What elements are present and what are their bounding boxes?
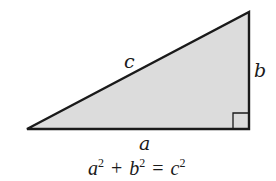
svg-text:a2+b2=c2: a2+b2=c2 bbox=[88, 156, 185, 179]
eq-a-exp: 2 bbox=[98, 156, 104, 170]
pythagorean-equation: a2+b2=c2 bbox=[88, 156, 185, 179]
label-a: a bbox=[139, 132, 150, 154]
eq-c: c bbox=[171, 157, 180, 179]
right-triangle-diagram: c b a a2+b2=c2 bbox=[0, 0, 276, 181]
eq-c-exp: 2 bbox=[179, 156, 185, 170]
eq-plus: + bbox=[111, 157, 122, 179]
eq-a: a bbox=[88, 157, 98, 179]
label-c: c bbox=[124, 50, 135, 72]
eq-equals: = bbox=[152, 157, 163, 179]
eq-b: b bbox=[129, 157, 139, 179]
triangle-shape bbox=[27, 12, 249, 129]
label-b: b bbox=[254, 59, 266, 81]
eq-b-exp: 2 bbox=[139, 156, 145, 170]
